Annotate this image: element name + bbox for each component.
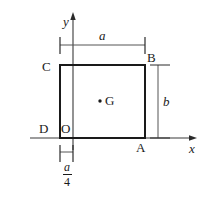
vertex-label-a: A [136,141,145,154]
origin-label: O [61,122,70,135]
vertex-label-d: D [39,122,48,135]
centroid-label: G [105,94,114,107]
fraction-numerator: a [59,161,75,174]
centroid-dot [98,99,101,102]
fraction-denominator: 4 [59,175,75,188]
geometry-figure: C B D A O G x y a b a 4 [0,0,210,203]
dimension-label-a-over-4: a 4 [59,161,75,188]
dimension-label-b: b [163,95,170,108]
y-axis [70,12,75,150]
dimension-label-a: a [99,29,106,42]
vertex-label-c: C [42,60,51,73]
x-axis-label: x [189,142,195,155]
y-axis-label: y [63,15,69,28]
vertex-label-b: B [147,51,156,64]
